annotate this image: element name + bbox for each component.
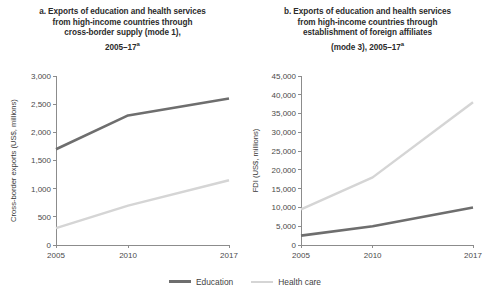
x-tick-label: 2010 [364, 251, 382, 260]
y-tick-label: 500 [38, 213, 52, 222]
series-line-education [301, 207, 473, 235]
y-tick-label: 2,500 [31, 100, 52, 109]
chart-legend: Education Health care [0, 266, 490, 297]
legend-label-health-care: Health care [278, 277, 321, 287]
y-axis-title: FDI (US$, millions) [251, 128, 260, 192]
chart-panel-a: a. Exports of education and health servi… [0, 0, 245, 268]
y-tick-label: 1,500 [31, 156, 52, 165]
y-tick-label: 2,000 [31, 128, 52, 137]
y-tick-label: 35,000 [272, 109, 297, 118]
legend-item-education: Education [169, 277, 233, 287]
x-tick-label: 2017 [464, 251, 482, 260]
panel-container: a. Exports of education and health servi… [0, 0, 490, 268]
x-tick-label: 2017 [220, 251, 238, 260]
x-tick-label: 2010 [119, 251, 137, 260]
y-tick-label: 1,000 [31, 185, 52, 194]
y-tick-label: 0 [47, 241, 52, 250]
series-line-health-care [301, 102, 473, 209]
y-tick-label: 5,000 [276, 222, 297, 231]
y-tick-label: 25,000 [272, 147, 297, 156]
x-tick-label: 2005 [292, 251, 310, 260]
panel-b-svg: 05,00010,00015,00020,00025,00030,00035,0… [245, 0, 490, 268]
y-tick-label: 30,000 [272, 128, 297, 137]
panel-a-plot-area: 05001,0001,5002,0002,5003,00020052010201… [0, 0, 245, 268]
y-axis-title: Cross-border exports (US$, millions) [9, 99, 18, 222]
y-tick-label: 10,000 [272, 203, 297, 212]
chart-panel-b: b. Exports of education and health servi… [245, 0, 490, 268]
y-tick-label: 15,000 [272, 185, 297, 194]
series-line-education [56, 99, 229, 150]
y-tick-label: 3,000 [31, 72, 52, 81]
series-line-health-care [56, 180, 229, 228]
legend-swatch-health-care [251, 281, 273, 283]
y-tick-label: 0 [292, 241, 297, 250]
legend-swatch-education [169, 280, 191, 283]
x-tick-label: 2005 [47, 251, 65, 260]
y-tick-label: 20,000 [272, 166, 297, 175]
legend-label-education: Education [196, 277, 233, 287]
panel-a-svg: 05001,0001,5002,0002,5003,00020052010201… [0, 0, 245, 268]
figure-root: a. Exports of education and health servi… [0, 0, 490, 297]
legend-item-health-care: Health care [251, 277, 321, 287]
y-tick-label: 40,000 [272, 91, 297, 100]
y-tick-label: 45,000 [272, 72, 297, 81]
panel-b-plot-area: 05,00010,00015,00020,00025,00030,00035,0… [245, 0, 490, 268]
